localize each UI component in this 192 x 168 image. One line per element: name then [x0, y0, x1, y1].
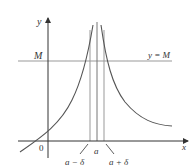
pointer-a-minus-delta: [80, 144, 88, 154]
a-plus-delta-label: a + δ: [109, 157, 129, 167]
right-branch-curve: [101, 25, 172, 126]
pointer-a-plus-delta: [106, 144, 114, 154]
M-label: M: [33, 50, 43, 61]
x-axis-label: x: [181, 142, 186, 152]
y-equals-M-label: y = M: [147, 50, 171, 60]
infinite-limit-diagram: y M y = M 0 x a a − δ a + δ: [0, 0, 192, 168]
left-branch-curve: [20, 25, 93, 152]
origin-label: 0: [39, 143, 44, 153]
y-axis-label: y: [36, 16, 42, 27]
a-minus-delta-label: a − δ: [65, 157, 85, 167]
a-label: a: [94, 146, 99, 156]
